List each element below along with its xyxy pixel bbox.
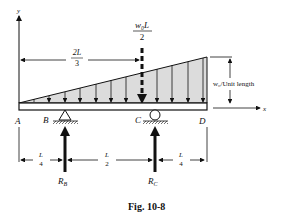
dimension-bc-denominator: 2 — [105, 160, 109, 168]
resultant-distance-numerator: 2L — [73, 48, 82, 57]
load-intensity-label: w₀/Unit length — [213, 80, 255, 88]
resultant-denominator: 2 — [140, 32, 145, 42]
point-b-label: B — [43, 115, 49, 125]
reaction-rc-label: RC — [147, 176, 159, 187]
point-c-label: C — [135, 115, 142, 125]
distributed-load-area — [19, 57, 207, 103]
point-d-label: D — [198, 116, 206, 126]
dimension-ab-numerator: L — [38, 151, 43, 159]
reaction-rb-label: RB — [57, 176, 68, 187]
dimension-cd-denominator: 4 — [179, 160, 183, 168]
point-a-label: A — [14, 116, 21, 126]
x-axis-label: x — [262, 105, 267, 113]
dimension-ab-denominator: 4 — [39, 160, 43, 168]
dimension-bc-numerator: L — [104, 151, 109, 159]
roller-support-c — [150, 110, 160, 120]
reaction-rb-arrowhead — [60, 126, 70, 136]
resultant-distance-denominator: 3 — [75, 59, 79, 68]
ground-hatch-c — [143, 121, 168, 124]
pin-support-b — [59, 110, 71, 120]
reaction-rc-arrowhead — [150, 126, 160, 136]
figure-caption: Fig. 10-8 — [128, 201, 165, 212]
resultant-numerator: w₀L — [135, 20, 149, 30]
ground-hatch-b — [53, 121, 78, 124]
y-axis-label: y — [16, 7, 21, 15]
beam — [19, 103, 207, 110]
dimension-cd-numerator: L — [178, 151, 183, 159]
beam-diagram: y w₀L 2 2L 3 w₀/Unit length x A B C — [0, 0, 285, 216]
